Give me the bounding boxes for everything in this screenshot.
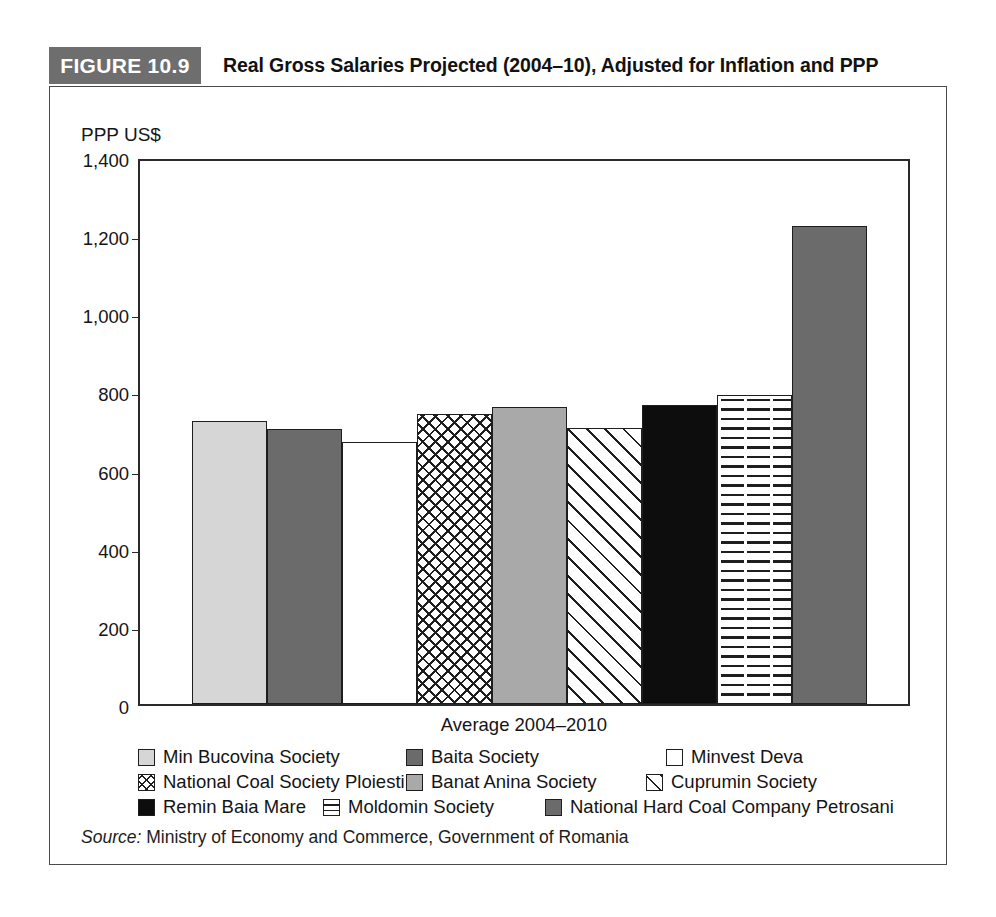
bar-7	[642, 405, 717, 704]
legend-label: Remin Baia Mare	[163, 798, 306, 817]
figure-container: FIGURE 10.9 Real Gross Salaries Projecte…	[0, 0, 996, 917]
y-axis-tick-label: 1,400	[83, 150, 140, 172]
plot-area: 02004006008001,0001,2001,400	[138, 159, 910, 706]
x-axis-label: Average 2004–2010	[138, 714, 910, 736]
legend-swatch-icon	[323, 799, 340, 816]
legend-item[interactable]: Cuprumin Society	[646, 773, 817, 792]
legend-item[interactable]: Min Bucovina Society	[138, 748, 406, 767]
legend-label: Banat Anina Society	[431, 773, 597, 792]
legend-item[interactable]: National Coal Society Ploiesti	[138, 773, 406, 792]
legend-item[interactable]: Moldomin Society	[323, 798, 545, 817]
y-axis-tick-mark	[132, 630, 140, 631]
legend-label: Moldomin Society	[348, 798, 494, 817]
source-note: Source: Ministry of Economy and Commerce…	[81, 827, 629, 848]
y-axis-tick-label: 0	[119, 697, 140, 719]
bar-1	[192, 421, 267, 704]
bar-4	[417, 414, 492, 704]
bar-6	[567, 428, 642, 704]
legend-swatch-icon	[138, 799, 155, 816]
legend-row: Min Bucovina SocietyBaita SocietyMinvest…	[138, 745, 928, 770]
bar-9	[792, 226, 867, 704]
legend-item[interactable]: Baita Society	[406, 748, 666, 767]
legend-row: Remin Baia MareMoldomin SocietyNational …	[138, 795, 928, 820]
figure-title: Real Gross Salaries Projected (2004–10),…	[201, 47, 949, 84]
y-axis-tick-mark	[132, 474, 140, 475]
legend-label: Cuprumin Society	[671, 773, 817, 792]
legend-label: Minvest Deva	[691, 748, 803, 767]
bar-3	[342, 442, 417, 704]
legend-item[interactable]: Minvest Deva	[666, 748, 803, 767]
bar-series	[140, 161, 908, 704]
bar-5	[492, 407, 567, 704]
legend-item[interactable]: National Hard Coal Company Petrosani	[545, 798, 894, 817]
legend-label: Min Bucovina Society	[163, 748, 340, 767]
legend-item[interactable]: Banat Anina Society	[406, 773, 646, 792]
source-text: Ministry of Economy and Commerce, Govern…	[146, 827, 628, 847]
figure-number-badge: FIGURE 10.9	[49, 47, 201, 84]
y-axis-tick-mark	[132, 317, 140, 318]
y-axis-tick-mark	[132, 552, 140, 553]
legend-label: National Hard Coal Company Petrosani	[570, 798, 894, 817]
figure-header: FIGURE 10.9 Real Gross Salaries Projecte…	[49, 47, 949, 84]
y-axis-tick-mark	[132, 239, 140, 240]
bar-8	[717, 395, 792, 704]
legend-label: Baita Society	[431, 748, 539, 767]
legend-swatch-icon	[406, 774, 423, 791]
y-axis-title: PPP US$	[81, 124, 161, 146]
chart-legend: Min Bucovina SocietyBaita SocietyMinvest…	[138, 745, 928, 820]
bar-2	[267, 429, 342, 704]
legend-swatch-icon	[138, 774, 155, 791]
legend-row: National Coal Society PloiestiBanat Anin…	[138, 770, 928, 795]
legend-swatch-icon	[646, 774, 663, 791]
source-label: Source:	[81, 827, 141, 847]
legend-swatch-icon	[406, 749, 423, 766]
legend-swatch-icon	[666, 749, 683, 766]
legend-item[interactable]: Remin Baia Mare	[138, 798, 323, 817]
legend-swatch-icon	[138, 749, 155, 766]
legend-label: National Coal Society Ploiesti	[163, 773, 405, 792]
y-axis-tick-mark	[132, 395, 140, 396]
legend-swatch-icon	[545, 799, 562, 816]
